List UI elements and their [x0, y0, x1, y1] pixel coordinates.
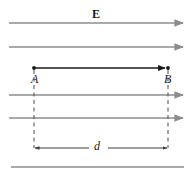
- point-a-label: A: [31, 73, 38, 85]
- field-strength-label: E: [92, 8, 100, 20]
- point-b-dot: [166, 66, 170, 70]
- point-b-label: B: [164, 73, 171, 85]
- guide-lines: [34, 70, 168, 148]
- electric-field-diagram: E A B d: [0, 0, 195, 176]
- point-a-dot: [32, 66, 36, 70]
- displacement-vector: [32, 66, 170, 70]
- distance-label: d: [94, 140, 100, 152]
